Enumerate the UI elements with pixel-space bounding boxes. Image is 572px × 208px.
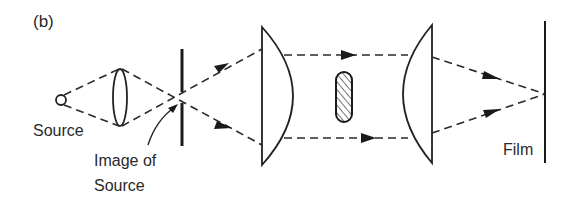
arrow-converge-bottom-icon bbox=[483, 109, 500, 118]
ray-cross-bottom-to-top bbox=[122, 49, 262, 126]
ray-cross-top-to-bottom bbox=[122, 69, 262, 145]
image-of-label-line2: Source bbox=[94, 177, 145, 194]
condenser-lens-icon bbox=[113, 69, 127, 126]
arrow-converge-top-icon bbox=[482, 71, 500, 79]
object-hatched-icon bbox=[336, 72, 352, 122]
arrow-right-bottom-icon bbox=[361, 133, 376, 143]
image-of-label-line1: Image of bbox=[94, 152, 157, 169]
optical-setup-diagram: (b) Source Image of Source Film bbox=[0, 0, 572, 208]
imaging-lens-icon bbox=[403, 25, 432, 163]
collimating-lens-icon bbox=[262, 27, 293, 165]
arrow-down-right-icon bbox=[214, 121, 232, 129]
source-label: Source bbox=[33, 122, 84, 139]
arrow-right-top-icon bbox=[341, 50, 356, 60]
image-pointer-line bbox=[148, 107, 175, 145]
film-label: Film bbox=[503, 141, 533, 158]
ray-source-top bbox=[64, 69, 119, 95]
point-source-icon bbox=[56, 95, 66, 105]
panel-label: (b) bbox=[33, 12, 54, 31]
